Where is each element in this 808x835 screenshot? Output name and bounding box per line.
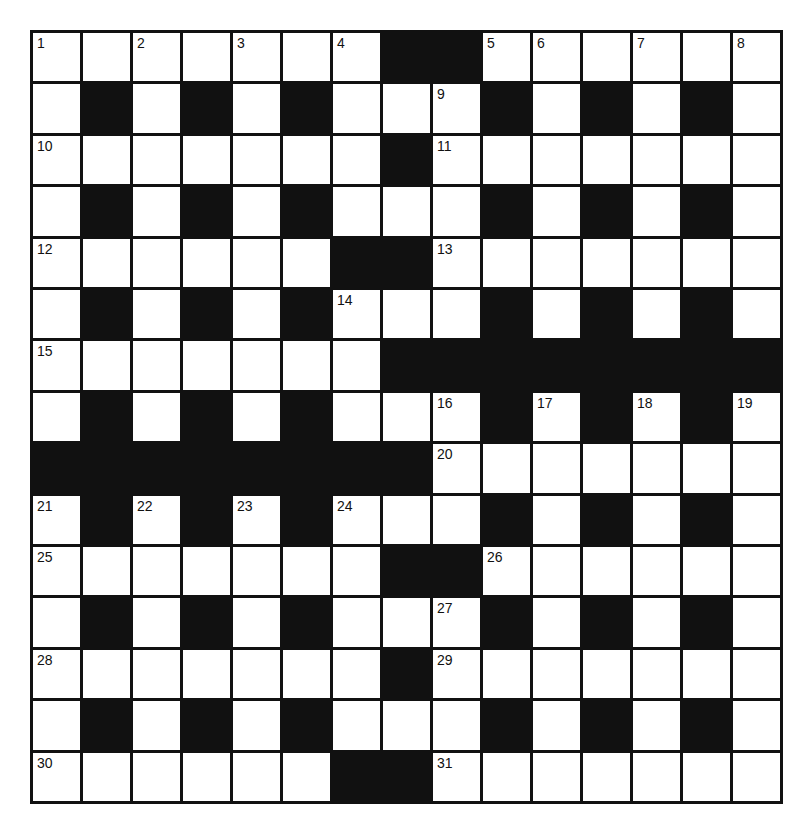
answer-cell[interactable] bbox=[283, 341, 330, 389]
answer-cell[interactable] bbox=[733, 598, 780, 646]
answer-cell[interactable] bbox=[483, 753, 530, 801]
answer-cell[interactable] bbox=[583, 753, 630, 801]
answer-cell[interactable] bbox=[683, 444, 730, 492]
answer-cell[interactable] bbox=[233, 239, 280, 287]
answer-cell[interactable] bbox=[583, 444, 630, 492]
answer-cell[interactable]: 18 bbox=[633, 393, 680, 441]
answer-cell[interactable] bbox=[683, 136, 730, 184]
answer-cell[interactable] bbox=[333, 393, 380, 441]
answer-cell[interactable] bbox=[733, 444, 780, 492]
answer-cell[interactable] bbox=[633, 136, 680, 184]
answer-cell[interactable] bbox=[333, 650, 380, 698]
answer-cell[interactable] bbox=[633, 701, 680, 749]
answer-cell[interactable] bbox=[533, 701, 580, 749]
answer-cell[interactable]: 21 bbox=[33, 496, 80, 544]
answer-cell[interactable] bbox=[733, 290, 780, 338]
answer-cell[interactable] bbox=[633, 84, 680, 132]
answer-cell[interactable] bbox=[383, 496, 430, 544]
answer-cell[interactable] bbox=[133, 650, 180, 698]
answer-cell[interactable] bbox=[183, 341, 230, 389]
answer-cell[interactable] bbox=[383, 290, 430, 338]
answer-cell[interactable]: 10 bbox=[33, 136, 80, 184]
answer-cell[interactable] bbox=[133, 598, 180, 646]
answer-cell[interactable] bbox=[633, 547, 680, 595]
answer-cell[interactable]: 4 bbox=[333, 33, 380, 81]
answer-cell[interactable] bbox=[683, 547, 730, 595]
answer-cell[interactable] bbox=[733, 84, 780, 132]
answer-cell[interactable] bbox=[83, 136, 130, 184]
answer-cell[interactable] bbox=[233, 187, 280, 235]
answer-cell[interactable] bbox=[283, 753, 330, 801]
answer-cell[interactable] bbox=[533, 239, 580, 287]
answer-cell[interactable] bbox=[133, 187, 180, 235]
answer-cell[interactable] bbox=[133, 290, 180, 338]
answer-cell[interactable] bbox=[583, 33, 630, 81]
answer-cell[interactable]: 1 bbox=[33, 33, 80, 81]
answer-cell[interactable]: 16 bbox=[433, 393, 480, 441]
answer-cell[interactable] bbox=[133, 547, 180, 595]
answer-cell[interactable]: 20 bbox=[433, 444, 480, 492]
answer-cell[interactable] bbox=[283, 650, 330, 698]
answer-cell[interactable] bbox=[733, 187, 780, 235]
answer-cell[interactable] bbox=[233, 84, 280, 132]
answer-cell[interactable] bbox=[333, 84, 380, 132]
answer-cell[interactable] bbox=[433, 187, 480, 235]
answer-cell[interactable] bbox=[733, 753, 780, 801]
answer-cell[interactable] bbox=[133, 753, 180, 801]
answer-cell[interactable] bbox=[383, 393, 430, 441]
answer-cell[interactable] bbox=[233, 290, 280, 338]
answer-cell[interactable]: 11 bbox=[433, 136, 480, 184]
answer-cell[interactable]: 7 bbox=[633, 33, 680, 81]
answer-cell[interactable]: 17 bbox=[533, 393, 580, 441]
answer-cell[interactable] bbox=[83, 33, 130, 81]
answer-cell[interactable] bbox=[183, 650, 230, 698]
answer-cell[interactable] bbox=[733, 239, 780, 287]
answer-cell[interactable] bbox=[183, 753, 230, 801]
answer-cell[interactable]: 26 bbox=[483, 547, 530, 595]
answer-cell[interactable] bbox=[333, 598, 380, 646]
answer-cell[interactable] bbox=[483, 444, 530, 492]
answer-cell[interactable] bbox=[83, 753, 130, 801]
answer-cell[interactable] bbox=[433, 290, 480, 338]
answer-cell[interactable] bbox=[383, 84, 430, 132]
answer-cell[interactable] bbox=[83, 547, 130, 595]
answer-cell[interactable] bbox=[233, 393, 280, 441]
answer-cell[interactable]: 30 bbox=[33, 753, 80, 801]
answer-cell[interactable] bbox=[233, 753, 280, 801]
answer-cell[interactable] bbox=[683, 33, 730, 81]
answer-cell[interactable] bbox=[633, 496, 680, 544]
answer-cell[interactable] bbox=[583, 650, 630, 698]
answer-cell[interactable] bbox=[133, 84, 180, 132]
answer-cell[interactable] bbox=[333, 341, 380, 389]
answer-cell[interactable] bbox=[383, 701, 430, 749]
answer-cell[interactable] bbox=[133, 239, 180, 287]
answer-cell[interactable]: 19 bbox=[733, 393, 780, 441]
answer-cell[interactable] bbox=[183, 239, 230, 287]
answer-cell[interactable] bbox=[283, 136, 330, 184]
answer-cell[interactable]: 29 bbox=[433, 650, 480, 698]
answer-cell[interactable]: 28 bbox=[33, 650, 80, 698]
answer-cell[interactable] bbox=[633, 239, 680, 287]
answer-cell[interactable] bbox=[683, 239, 730, 287]
answer-cell[interactable]: 5 bbox=[483, 33, 530, 81]
answer-cell[interactable]: 14 bbox=[333, 290, 380, 338]
answer-cell[interactable] bbox=[83, 341, 130, 389]
answer-cell[interactable] bbox=[183, 547, 230, 595]
answer-cell[interactable] bbox=[533, 496, 580, 544]
answer-cell[interactable] bbox=[233, 701, 280, 749]
answer-cell[interactable] bbox=[333, 547, 380, 595]
answer-cell[interactable]: 13 bbox=[433, 239, 480, 287]
answer-cell[interactable] bbox=[483, 136, 530, 184]
answer-cell[interactable] bbox=[533, 136, 580, 184]
answer-cell[interactable] bbox=[633, 290, 680, 338]
answer-cell[interactable] bbox=[683, 650, 730, 698]
answer-cell[interactable] bbox=[233, 547, 280, 595]
answer-cell[interactable] bbox=[733, 547, 780, 595]
answer-cell[interactable] bbox=[233, 650, 280, 698]
answer-cell[interactable] bbox=[583, 136, 630, 184]
answer-cell[interactable] bbox=[633, 187, 680, 235]
answer-cell[interactable] bbox=[633, 598, 680, 646]
answer-cell[interactable] bbox=[633, 650, 680, 698]
answer-cell[interactable]: 31 bbox=[433, 753, 480, 801]
answer-cell[interactable] bbox=[533, 444, 580, 492]
